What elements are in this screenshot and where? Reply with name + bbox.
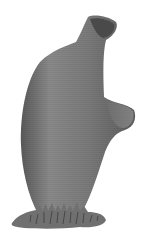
sponge-illustration: [0, 0, 151, 247]
sponge-drawing: [0, 0, 151, 247]
